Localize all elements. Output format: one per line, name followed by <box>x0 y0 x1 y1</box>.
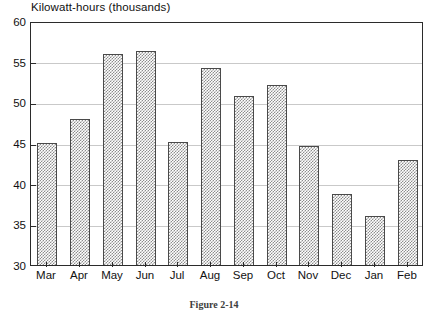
bar-nov <box>299 146 319 265</box>
x-tick-label-apr: Apr <box>70 269 88 281</box>
x-tick-label-jul: Jul <box>170 269 185 281</box>
x-tick-mark <box>112 262 113 267</box>
x-tick-mark <box>407 262 408 267</box>
x-tick-mark <box>374 262 375 267</box>
x-axis: MarAprMayJunJulAugSepOctNovDecJanFeb <box>30 267 423 287</box>
x-tick-mark <box>210 262 211 267</box>
x-tick-mark <box>276 262 277 267</box>
x-tick-label-may: May <box>101 269 123 281</box>
y-axis: 30354045505560 <box>0 22 30 266</box>
x-tick-mark <box>341 262 342 267</box>
bar-series <box>31 23 422 265</box>
figure-container: Kilowatt-hours (thousands) 3035404550556… <box>0 0 428 311</box>
x-tick-label-sep: Sep <box>233 269 253 281</box>
y-tick-label: 45 <box>13 138 26 150</box>
bar-oct <box>267 85 287 265</box>
x-tick-mark <box>46 262 47 267</box>
x-tick-label-mar: Mar <box>36 269 56 281</box>
bar-jan <box>365 216 385 265</box>
x-tick-label-aug: Aug <box>200 269 220 281</box>
x-tick-label-oct: Oct <box>267 269 285 281</box>
bar-may <box>103 54 123 265</box>
chart-title: Kilowatt-hours (thousands) <box>31 1 170 13</box>
y-tick-label: 55 <box>13 57 26 69</box>
bar-jul <box>168 142 188 265</box>
y-tick-label: 40 <box>13 179 26 191</box>
bar-mar <box>37 143 57 265</box>
x-tick-label-jan: Jan <box>365 269 384 281</box>
bar-dec <box>332 194 352 265</box>
figure-caption: Figure 2-14 <box>0 299 428 310</box>
bar-sep <box>234 96 254 265</box>
y-tick-label: 35 <box>13 219 26 231</box>
bar-apr <box>70 119 90 265</box>
bar-feb <box>398 160 418 265</box>
x-tick-mark <box>177 262 178 267</box>
y-tick-label: 30 <box>13 260 26 272</box>
plot-area <box>30 22 423 266</box>
y-tick-label: 60 <box>13 16 26 28</box>
x-tick-label-dec: Dec <box>331 269 351 281</box>
x-tick-mark <box>308 262 309 267</box>
x-tick-mark <box>79 262 80 267</box>
bar-jun <box>136 51 156 265</box>
bar-aug <box>201 68 221 265</box>
y-tick-label: 50 <box>13 97 26 109</box>
x-tick-label-jun: Jun <box>136 269 155 281</box>
x-tick-mark <box>243 262 244 267</box>
x-tick-label-nov: Nov <box>298 269 318 281</box>
x-tick-label-feb: Feb <box>397 269 417 281</box>
x-tick-mark <box>145 262 146 267</box>
